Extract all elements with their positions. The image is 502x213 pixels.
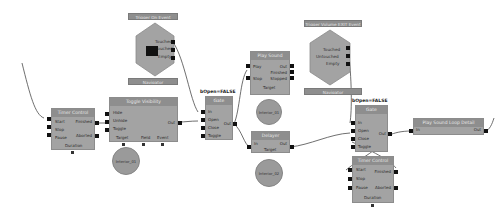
timer2-port-stop[interactable] xyxy=(348,177,352,181)
delayer-port-in[interactable] xyxy=(247,145,251,149)
delayer-port-out[interactable] xyxy=(290,145,294,149)
timer1-port-pause[interactable] xyxy=(47,133,51,137)
gate2-title: Gate xyxy=(356,106,387,114)
toggle-in-hide: Hide xyxy=(113,110,122,115)
timer2-port-pause[interactable] xyxy=(348,186,352,190)
gate1-in-in: In xyxy=(208,109,212,114)
toggle-param-target-port[interactable] xyxy=(122,143,125,146)
trigger1-port-untouched[interactable] xyxy=(171,48,175,52)
timer2-node[interactable]: Timer Control Start Stop Pause Finished … xyxy=(352,156,394,203)
playsound-in-play: Play xyxy=(253,64,261,69)
toggle-param-field-port[interactable] xyxy=(142,143,145,146)
gate2-port-in[interactable] xyxy=(351,121,355,125)
schematic-canvas[interactable]: Trigger On Event Touched Untouched Empty… xyxy=(0,0,502,213)
timer2-title: Timer Control xyxy=(353,157,393,165)
timer2-in-stop: Stop xyxy=(356,176,365,181)
playsound-out-finished: Finished xyxy=(271,70,287,75)
playsound-footer: Target xyxy=(263,85,275,90)
gate1-title: Gate xyxy=(206,97,232,105)
playsound2-port-out[interactable] xyxy=(484,129,488,133)
gate1-in-open: Open xyxy=(208,117,219,122)
timer1-param-duration[interactable] xyxy=(71,151,74,154)
trigger2-out-touched: Touched xyxy=(323,47,340,52)
gate1-port-toggle[interactable] xyxy=(201,134,205,138)
gate2-node[interactable]: Gate In Open Close Toggle Out xyxy=(355,105,388,152)
gate2-port-open[interactable] xyxy=(351,129,355,133)
trigger1-port-empty[interactable] xyxy=(171,56,175,60)
toggle-title: Toggle Visibility xyxy=(110,98,177,106)
delayer-node[interactable]: Delayer In Out Target xyxy=(251,131,290,153)
gate2-port-toggle[interactable] xyxy=(351,145,355,149)
toggle-param-target: Target xyxy=(116,135,128,140)
toggle-port-toggle[interactable] xyxy=(105,128,109,132)
timer2-port-start[interactable] xyxy=(348,168,352,172)
gate1-port-in[interactable] xyxy=(201,110,205,114)
toggle-in-unhide: Unhide xyxy=(113,118,127,123)
timer1-port-stop[interactable] xyxy=(47,125,51,129)
playsound-port-play[interactable] xyxy=(246,64,250,68)
gate1-node[interactable]: Gate In Open Close Toggle Out xyxy=(205,96,233,140)
playsound-target-param[interactable]: Interior_01 xyxy=(256,99,282,125)
playsound-in-stop: Stop xyxy=(253,76,262,81)
toggle-port-hide[interactable] xyxy=(105,112,109,116)
toggle-in-toggle: Toggle xyxy=(113,126,126,131)
toggle-out: Out xyxy=(168,120,175,125)
gate1-out: Out xyxy=(224,121,231,126)
playsound-port-out[interactable] xyxy=(290,64,294,68)
timer1-out-finished: Finished xyxy=(76,119,92,124)
gate2-port-close[interactable] xyxy=(351,137,355,141)
trigger2-port-empty[interactable] xyxy=(346,62,350,66)
toggle-target-param[interactable]: Interior_01 xyxy=(112,147,140,175)
gate2-in-open: Open xyxy=(358,128,369,133)
gate2-out: Out xyxy=(379,131,386,136)
delayer-footer: Target xyxy=(264,147,276,152)
gate2-label: bOpen=FALSE xyxy=(352,98,388,103)
gate1-port-open[interactable] xyxy=(201,118,205,122)
playsound-node[interactable]: Play Sound Play Stop Out Finished Stoppe… xyxy=(250,51,290,95)
timer1-node[interactable]: Timer Control Start Stop Pause Finished … xyxy=(51,108,95,150)
gate2-in-toggle: Toggle xyxy=(358,144,371,149)
playsound2-port-in[interactable] xyxy=(409,129,413,133)
playsound-out-stopped: Stopped xyxy=(270,76,287,81)
playsound-port-stop[interactable] xyxy=(246,76,250,80)
gate1-port-close[interactable] xyxy=(201,126,205,130)
trigger2-port-touched[interactable] xyxy=(346,46,350,50)
timer2-port-finished[interactable] xyxy=(394,170,398,174)
trigger2-out-untouched: Untouched xyxy=(316,54,339,59)
playsound-port-finished[interactable] xyxy=(290,70,294,74)
timer1-port-finished[interactable] xyxy=(95,121,99,125)
toggle-node[interactable]: Toggle Visibility Hide Unhide Toggle Out… xyxy=(109,97,178,142)
playsound-title: Play Sound xyxy=(251,52,289,60)
timer2-port-aborted[interactable] xyxy=(394,186,398,190)
trigger1-footer[interactable]: Navigator xyxy=(128,78,178,85)
timer1-port-start[interactable] xyxy=(47,117,51,121)
timer1-title: Timer Control xyxy=(52,109,94,117)
timer2-out-aborted: Aborted xyxy=(375,185,391,190)
trigger2-footer[interactable]: Navigator xyxy=(304,88,362,95)
playsound2-node[interactable]: Play Sound Loop Detail In Out xyxy=(413,118,484,135)
gate2-port-out[interactable] xyxy=(388,132,392,136)
delayer-out: Out xyxy=(280,141,287,146)
gate1-in-toggle: Toggle xyxy=(208,133,221,138)
gate1-port-out[interactable] xyxy=(233,122,237,126)
playsound2-title: Play Sound Loop Detail xyxy=(414,119,483,127)
gate2-in-in: In xyxy=(358,120,362,125)
timer2-param-duration[interactable] xyxy=(371,204,374,207)
timer2-out-finished: Finished xyxy=(375,169,391,174)
trigger1-title[interactable]: Trigger On Event xyxy=(128,13,178,20)
toggle-port-unhide[interactable] xyxy=(105,120,109,124)
delayer-target-param[interactable]: Interior_02 xyxy=(255,159,283,187)
toggle-param-event-port[interactable] xyxy=(161,143,164,146)
playsound-port-stopped[interactable] xyxy=(290,76,294,80)
trigger2-title[interactable]: Trigger Volume EXIT Event xyxy=(304,20,362,27)
toggle-port-out[interactable] xyxy=(178,121,182,125)
timer2-duration: Duration xyxy=(364,195,381,200)
timer1-in-stop: Stop xyxy=(55,127,64,132)
delayer-in: In xyxy=(254,141,258,146)
trigger1-icon xyxy=(146,46,158,56)
trigger2-port-untouched[interactable] xyxy=(346,54,350,58)
timer1-duration: Duration xyxy=(65,143,82,148)
gate1-label: bOpen=FALSE xyxy=(200,89,236,94)
timer1-port-aborted[interactable] xyxy=(95,134,99,138)
trigger1-port-touched[interactable] xyxy=(171,40,175,44)
